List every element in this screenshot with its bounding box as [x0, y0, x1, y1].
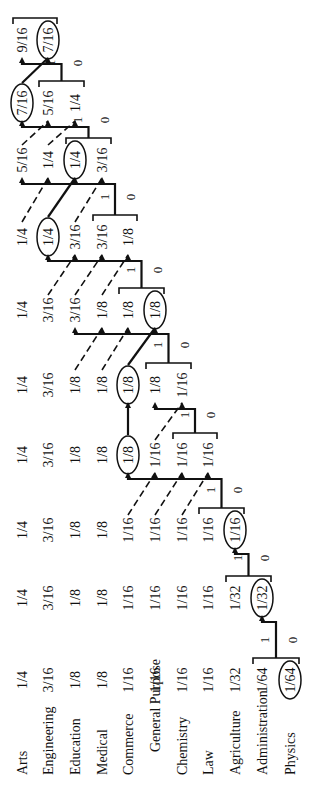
merge-link: [235, 550, 249, 576]
probability-value: 3/16: [41, 668, 56, 693]
bit-one-label: 1: [70, 117, 85, 124]
probability-value: 1/8: [95, 446, 110, 464]
category-label: Medical: [95, 729, 110, 775]
carry-over-link: [22, 121, 48, 145]
probability-value: 1/8: [121, 301, 136, 319]
bit-zero-label: 0: [123, 194, 138, 201]
circled-value: 1/16: [228, 518, 243, 543]
bit-one-label: 1: [150, 342, 165, 349]
merge-brace: [93, 215, 137, 221]
category-label: Engineering: [41, 707, 56, 775]
huffman-tree-diagram: ArtsEngineeringEducationMedicalCommerceG…: [0, 0, 312, 787]
probability-value: 1/8: [95, 521, 110, 539]
bit-zero-label: 0: [97, 117, 112, 124]
probability-value: 1/64: [255, 668, 270, 693]
probability-value: 1/16: [148, 518, 163, 543]
probability-value: 1/16: [175, 586, 190, 611]
category-label: Chemistry: [175, 717, 190, 775]
probability-value: 3/16: [95, 225, 110, 250]
category-label: Physics: [283, 732, 298, 775]
probability-value: 1/16: [201, 668, 216, 693]
probability-value: 1/4: [15, 446, 30, 464]
circled-value: 1/64: [283, 668, 298, 693]
merge-brace: [146, 363, 191, 369]
probability-value: 1/4: [15, 521, 30, 539]
category-label: Administration: [255, 690, 270, 775]
probability-value: 1/8: [68, 376, 83, 394]
probability-value: 1/16: [175, 518, 190, 543]
category-label: Arts: [15, 751, 30, 775]
probability-value: 1/16: [148, 586, 163, 611]
bit-zero-label: 0: [177, 342, 192, 349]
probability-value: 1/8: [121, 228, 136, 246]
probability-value: 1/8: [95, 376, 110, 394]
probability-value: 3/16: [95, 148, 110, 173]
merge-brace: [173, 433, 217, 439]
probability-value: 3/16: [68, 298, 83, 323]
probability-value: 5/16: [15, 148, 30, 173]
bit-zero-label: 0: [230, 487, 245, 494]
probability-value: 1/8: [148, 376, 163, 394]
probability-value: 1/16: [148, 443, 163, 468]
circled-value: 1/4: [41, 228, 56, 246]
probability-value: 3/16: [41, 518, 56, 543]
circled-value: 7/16: [41, 28, 56, 53]
probability-value: 3/16: [41, 298, 56, 323]
circled-value: 1/4: [68, 151, 83, 169]
probability-value: 3/16: [68, 225, 83, 250]
arrowhead-icon: [72, 327, 78, 333]
circled-value: 1/8: [121, 376, 136, 394]
bit-one-label: 1: [257, 637, 272, 644]
circled-value: 1/32: [255, 586, 270, 611]
probability-value: 1/4: [68, 94, 83, 112]
bit-one-label: 1: [123, 267, 138, 274]
circled-value: 1/8: [121, 446, 136, 464]
probability-value: 3/16: [41, 373, 56, 398]
probability-value: 1/16: [201, 518, 216, 543]
probability-value: 1/4: [41, 151, 56, 169]
merge-brace: [39, 81, 84, 87]
probability-value: 1/16: [148, 668, 163, 693]
probability-value: 1/4: [15, 301, 30, 319]
circled-value: 7/16: [15, 91, 30, 116]
bit-zero-label: 0: [257, 555, 272, 562]
probability-value: 3/16: [41, 586, 56, 611]
category-label: Education: [68, 718, 83, 775]
bit-zero-label: 0: [203, 412, 218, 419]
bit-one-label: 1: [97, 194, 112, 201]
arrowhead-icon: [19, 177, 25, 183]
probability-value: 1/4: [15, 671, 30, 689]
probability-value: 1/8: [68, 521, 83, 539]
probability-value: 1/16: [201, 586, 216, 611]
probability-value: 1/16: [201, 443, 216, 468]
arrowhead-icon: [179, 402, 185, 408]
probability-value: 1/8: [95, 671, 110, 689]
probability-value: 1/16: [121, 668, 136, 693]
arrowhead-icon: [152, 402, 158, 408]
bit-one-label: 1: [177, 412, 192, 419]
arrowhead-icon: [19, 57, 25, 63]
bit-one-label: 1: [203, 487, 218, 494]
probability-value: 1/8: [68, 589, 83, 607]
probability-value: 1/8: [95, 301, 110, 319]
category-label: Law: [201, 749, 216, 775]
circled-value: 1/8: [148, 301, 163, 319]
probability-value: 1/8: [95, 589, 110, 607]
category-label: Commerce: [121, 714, 136, 775]
probability-value: 1/16: [121, 518, 136, 543]
probability-value: 1/8: [68, 446, 83, 464]
probability-value: 1/16: [175, 443, 190, 468]
probability-value: 1/4: [15, 376, 30, 394]
probability-value: 1/16: [175, 373, 190, 398]
category-label: Agriculture: [228, 710, 243, 775]
probability-value: 1/32: [228, 668, 243, 693]
carry-over-link: [22, 58, 48, 83]
bit-one-label: 1: [230, 555, 245, 562]
probability-value: 1/16: [121, 586, 136, 611]
probability-value: 5/16: [41, 91, 56, 116]
probability-value: 1/32: [228, 586, 243, 611]
probability-value: 9/16: [15, 28, 30, 53]
arrowhead-icon: [45, 120, 51, 126]
probability-value: 1/16: [175, 668, 190, 693]
bit-zero-label: 0: [285, 637, 300, 644]
